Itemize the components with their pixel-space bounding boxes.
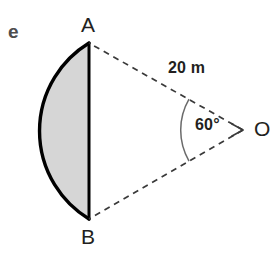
dashed-radius-OA: [89, 43, 243, 130]
item-letter-label: e: [8, 22, 19, 41]
radius-measurement-label: 20 m: [168, 60, 205, 76]
figure-canvas: [0, 0, 272, 262]
point-label-o: O: [254, 118, 270, 139]
geometry-diagram: e A B O 20 m 60°: [0, 0, 272, 262]
angle-measurement-label: 60°: [195, 117, 220, 133]
vertex-arrow-icon: [232, 124, 243, 136]
angle-arc-AOB: [181, 99, 189, 161]
point-label-a: A: [81, 14, 95, 35]
point-label-b: B: [81, 226, 95, 247]
dashed-radius-OB: [89, 130, 243, 219]
shaded-circular-segment: [40, 43, 89, 219]
